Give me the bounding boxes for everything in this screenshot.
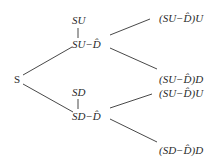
edge-root-up [23, 47, 72, 75]
edge-uu [110, 19, 150, 35]
node-root: S [14, 74, 20, 85]
node-up-adjusted: SU−D̂ [72, 39, 101, 50]
node-up-down: (SU−D̂)D [159, 74, 203, 85]
node-down: SD [72, 87, 85, 98]
node-up: SU [72, 15, 85, 26]
edge-root-down [23, 84, 73, 112]
node-down-up: (SU−D̂)U [159, 88, 203, 99]
edge-ud [110, 48, 157, 69]
node-up-up: (SU−D̂)U [159, 13, 203, 24]
edge-du [110, 94, 152, 108]
edge-dd [110, 119, 157, 142]
node-down-adjusted: SD−D̂ [72, 111, 101, 122]
node-down-down: (SD−D̂)D [159, 145, 203, 156]
